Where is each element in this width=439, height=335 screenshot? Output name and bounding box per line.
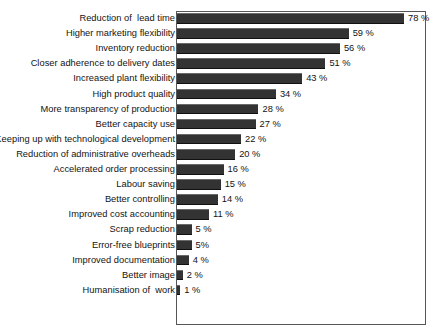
bar [177, 240, 192, 251]
bar-track [177, 87, 276, 102]
bar-row: Keeping up with technological developmen… [0, 132, 439, 147]
bar [177, 149, 235, 160]
bar-value-label: 1 % [184, 283, 200, 298]
bar-category-label: Better image [122, 268, 175, 283]
bar-category-label: Scrap reduction [110, 222, 175, 237]
bar-track [177, 132, 241, 147]
bar-value-label: 15 % [225, 177, 246, 192]
bar-value-label: 4 % [193, 253, 209, 268]
bar [177, 73, 302, 84]
bar-value-label: 5 % [196, 222, 212, 237]
bar-row: Labour saving15 % [0, 177, 439, 192]
bar-value-label: 27 % [260, 117, 281, 132]
bar-value-label: 5% [196, 238, 209, 253]
bar-track [177, 253, 189, 268]
horizontal-bar-chart: Reduction of lead time78 %Higher marketi… [0, 0, 439, 335]
bar [177, 224, 192, 235]
bar-value-label: 22 % [245, 132, 266, 147]
bar [177, 255, 189, 266]
bar-value-label: 78 % [408, 11, 429, 26]
bar [177, 13, 404, 24]
bar-category-label: Reduction of lead time [79, 11, 175, 26]
bar-category-label: Reduction of administrative overheads [16, 147, 175, 162]
bar-category-label: Better capacity use [96, 117, 175, 132]
bar-category-label: Inventory reduction [96, 41, 175, 56]
bar-track [177, 283, 180, 298]
bar-row: Error-free blueprints5% [0, 238, 439, 253]
bar-row: Improved documentation4 % [0, 253, 439, 268]
bar-category-label: High product quality [92, 87, 175, 102]
bar-value-label: 43 % [306, 71, 327, 86]
bar-row: Closer adherence to delivery dates51 % [0, 56, 439, 71]
bar-track [177, 56, 325, 71]
bar-row: Inventory reduction56 % [0, 41, 439, 56]
bar-category-label: Higher marketing flexibility [66, 26, 175, 41]
bar-category-label: Improved cost accounting [69, 207, 175, 222]
bar [177, 58, 325, 69]
bar-track [177, 207, 209, 222]
bar-track [177, 117, 256, 132]
bar-category-label: More transparency of production [41, 102, 175, 117]
bar-row: Better image2 % [0, 268, 439, 283]
bar [177, 43, 340, 54]
bar-track [177, 147, 235, 162]
bar-row: Increased plant flexibility43 % [0, 71, 439, 86]
bar [177, 209, 209, 220]
bar-value-label: 11 % [213, 207, 234, 222]
bar-value-label: 14 % [222, 192, 243, 207]
bar-track [177, 192, 218, 207]
bar-value-label: 51 % [329, 56, 350, 71]
bar-track [177, 238, 192, 253]
bar-value-label: 28 % [262, 102, 283, 117]
bar-row: Better controlling14 % [0, 192, 439, 207]
bar-row: High product quality34 % [0, 87, 439, 102]
bar-row: More transparency of production28 % [0, 102, 439, 117]
bar [177, 104, 258, 115]
bar-row: Scrap reduction5 % [0, 222, 439, 237]
bar-value-label: 20 % [239, 147, 260, 162]
bar-track [177, 177, 221, 192]
bar [177, 179, 221, 190]
bar-row: Accelerated order processing16 % [0, 162, 439, 177]
bar-rows-container: Reduction of lead time78 %Higher marketi… [0, 11, 439, 325]
bar-category-label: Labour saving [116, 177, 175, 192]
bar [177, 119, 256, 130]
bar [177, 285, 180, 296]
bar-category-label: Closer adherence to delivery dates [31, 56, 175, 71]
bar-category-label: Keeping up with technological developmen… [0, 132, 175, 147]
bar-value-label: 59 % [353, 26, 374, 41]
bar-track [177, 222, 192, 237]
bar [177, 194, 218, 205]
bar-value-label: 34 % [280, 87, 301, 102]
bar-row: Better capacity use27 % [0, 117, 439, 132]
bar-row: Higher marketing flexibility59 % [0, 26, 439, 41]
bar-track [177, 102, 258, 117]
bar-track [177, 162, 224, 177]
bar-track [177, 41, 340, 56]
bar-value-label: 56 % [344, 41, 365, 56]
bar [177, 134, 241, 145]
bar-row: Reduction of lead time78 % [0, 11, 439, 26]
bar-track [177, 11, 404, 26]
bar-category-label: Accelerated order processing [54, 162, 175, 177]
bar-row: Reduction of administrative overheads20 … [0, 147, 439, 162]
bar [177, 28, 349, 39]
bar-category-label: Error-free blueprints [92, 238, 175, 253]
bar-track [177, 268, 183, 283]
bar-row: Humanisation of work1 % [0, 283, 439, 298]
bar-category-label: Improved documentation [72, 253, 175, 268]
bar-value-label: 2 % [187, 268, 203, 283]
bar-value-label: 16 % [228, 162, 249, 177]
bar-category-label: Better controlling [105, 192, 175, 207]
bar-category-label: Humanisation of work [83, 283, 175, 298]
bar-category-label: Increased plant flexibility [73, 71, 175, 86]
bar-row: Improved cost accounting11 % [0, 207, 439, 222]
bar-track [177, 26, 349, 41]
bar [177, 270, 183, 281]
bar-track [177, 71, 302, 86]
bar [177, 164, 224, 175]
bar [177, 89, 276, 100]
